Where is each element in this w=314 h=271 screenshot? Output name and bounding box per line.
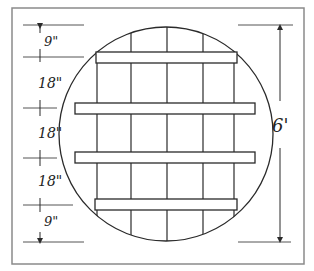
- plank-3: [75, 152, 255, 163]
- plank-4: [95, 199, 237, 210]
- plank-2: [75, 103, 255, 114]
- tabletop-diagram: 9" 18" 18" 18" 9" 6': [0, 0, 314, 271]
- dim-label-diameter: 6': [272, 115, 288, 136]
- dim-label-3: 18": [38, 125, 62, 141]
- dim-label-5: 9": [44, 214, 58, 229]
- dim-label-2: 18": [38, 75, 62, 91]
- dim-label-4: 18": [38, 173, 62, 189]
- dim-label-1: 9": [44, 34, 58, 49]
- plank-1: [96, 52, 237, 63]
- cross-planks: [75, 52, 255, 210]
